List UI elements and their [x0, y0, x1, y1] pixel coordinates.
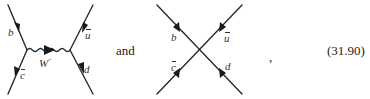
label-w-boson: W−	[39, 57, 52, 69]
feynman-diagrams-canvas	[0, 0, 370, 99]
label-b-2: b	[171, 32, 177, 43]
label-w-text: W	[39, 57, 48, 69]
label-w-charge: −	[48, 56, 52, 64]
label-anti-c-2: c	[171, 62, 176, 73]
anti-u-quark-line	[70, 5, 93, 50]
label-d: d	[84, 64, 90, 75]
label-anti-u-2-text: u	[224, 33, 230, 44]
label-anti-c-text: c	[20, 70, 25, 81]
trailing-comma: ,	[269, 50, 272, 63]
label-anti-c-2-text: c	[171, 62, 176, 73]
label-anti-c: c	[20, 70, 25, 81]
label-anti-u: u	[85, 30, 91, 41]
label-b: b	[8, 27, 14, 38]
equation-number: (31.90)	[327, 44, 365, 57]
contact-diagram	[157, 5, 242, 94]
w-boson-arrow-icon	[44, 45, 55, 55]
label-d-2: d	[225, 61, 231, 72]
b-quark-arrow-icon	[14, 22, 20, 32]
label-anti-u-2: u	[224, 33, 230, 44]
label-anti-u-text: u	[85, 30, 91, 41]
connector-and: and	[116, 44, 135, 57]
